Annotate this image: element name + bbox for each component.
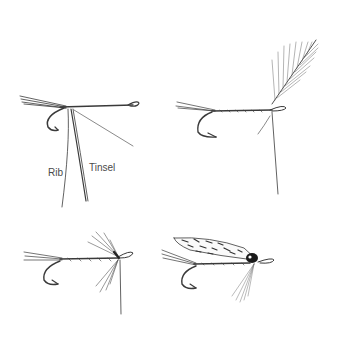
panel-step4 (162, 238, 274, 302)
tinsel-label: Tinsel (89, 162, 115, 173)
panel-step1 (20, 96, 139, 207)
panel-step2 (176, 40, 318, 194)
rib-label: Rib (48, 167, 63, 178)
panel-step3 (24, 232, 133, 314)
